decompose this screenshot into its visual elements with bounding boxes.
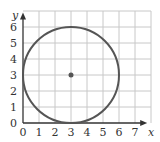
x-tick-label: 5 — [100, 126, 107, 139]
x-tick-label: 7 — [132, 126, 139, 139]
y-tick-label: 5 — [10, 37, 17, 50]
y-axis-arrow-icon — [20, 12, 26, 19]
x-tick-label: 3 — [68, 126, 75, 139]
x-axis-label: x — [148, 126, 155, 139]
x-axis-arrow-icon — [140, 120, 147, 126]
y-axis-label: y — [11, 9, 19, 22]
x-tick-label: 6 — [116, 126, 123, 139]
y-tick-label: 0 — [10, 117, 17, 130]
coordinate-plane: 012345670123456xy — [0, 0, 160, 142]
x-tick-label: 1 — [36, 126, 43, 139]
center-point — [69, 73, 74, 78]
y-tick-label: 6 — [10, 21, 17, 34]
y-tick-label: 2 — [10, 85, 17, 98]
y-tick-label: 3 — [10, 69, 17, 82]
x-tick-label: 2 — [52, 126, 59, 139]
x-tick-label: 0 — [20, 126, 27, 139]
y-tick-label: 4 — [10, 53, 17, 66]
y-tick-label: 1 — [10, 101, 17, 114]
x-tick-label: 4 — [84, 126, 91, 139]
